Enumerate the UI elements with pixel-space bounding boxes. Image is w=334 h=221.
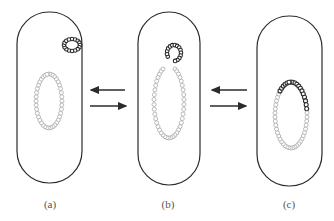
panel-label-c: (c) (283, 198, 295, 210)
chromosome-b (152, 67, 186, 140)
panel-label-a: (a) (44, 198, 56, 210)
cell-c-membrane (257, 16, 322, 186)
plasmid-a (62, 37, 82, 53)
plasmid-b (165, 43, 183, 62)
equilibrium-arrows-bc (210, 90, 247, 106)
equilibrium-arrows-ab (90, 90, 126, 106)
cell-a (17, 12, 82, 183)
cell-b-membrane (138, 12, 200, 185)
cell-c (257, 16, 322, 186)
chromosome-a (34, 72, 64, 130)
chromosome-c-integrated (273, 80, 309, 150)
plasmid-integration-diagram (0, 0, 334, 221)
panel-label-b: (b) (162, 198, 175, 210)
cell-b (138, 12, 200, 185)
